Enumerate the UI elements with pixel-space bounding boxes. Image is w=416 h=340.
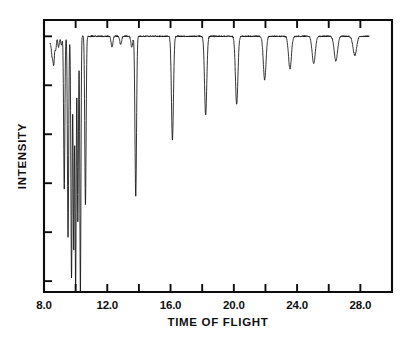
- x-tick-label: 16.0: [160, 299, 182, 311]
- x-tick-label: 8.0: [36, 299, 51, 311]
- x-tick-label: 28.0: [350, 299, 372, 311]
- spectrum-trace: [50, 36, 369, 292]
- y-axis-ticks: [44, 36, 52, 281]
- x-tick-label: 12.0: [96, 299, 118, 311]
- y-axis-title: INTENSITY: [16, 123, 28, 189]
- x-tick-label: 20.0: [223, 299, 245, 311]
- time-of-flight-spectrum-chart: 8.012.016.020.024.028.0 TIME OF FLIGHT I…: [0, 0, 416, 340]
- x-axis-tick-labels: 8.012.016.020.024.028.0: [36, 299, 371, 311]
- plot-frame: [44, 20, 392, 292]
- x-tick-label: 24.0: [286, 299, 308, 311]
- x-axis-title: TIME OF FLIGHT: [167, 316, 268, 328]
- figure-container: 8.012.016.020.024.028.0 TIME OF FLIGHT I…: [0, 0, 416, 340]
